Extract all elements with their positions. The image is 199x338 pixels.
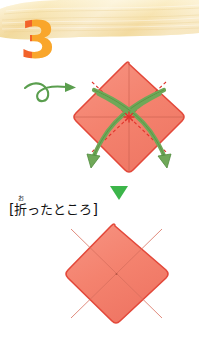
caption-close-bracket: ] xyxy=(92,201,97,217)
center-marker-icon xyxy=(124,112,134,122)
ruby-kanji-ori: お折 xyxy=(14,203,27,216)
figure-result-diagram xyxy=(58,218,178,330)
figure-fold-diagram xyxy=(60,56,195,184)
caption-rest: ったところ xyxy=(27,202,92,217)
step-number-glyph: 3 3 xyxy=(20,10,56,70)
instruction-page: 3 3 xyxy=(0,0,199,338)
next-step-arrow-icon xyxy=(108,184,130,202)
kanji-ori: 折 xyxy=(14,202,27,217)
step-number: 3 3 xyxy=(18,12,64,66)
center-point-marker xyxy=(116,273,118,275)
down-triangle xyxy=(110,186,128,200)
caption-folded-result: [お折ったところ] xyxy=(9,202,98,216)
furigana-o: お xyxy=(18,195,24,201)
